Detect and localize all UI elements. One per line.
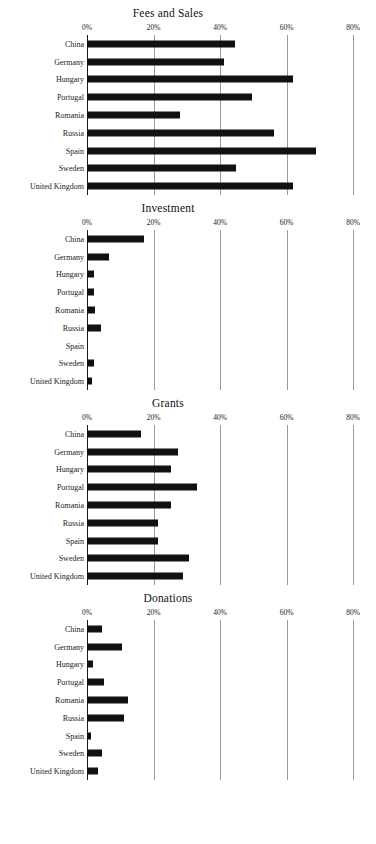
category-label: Germany [54,252,84,261]
category-label: Romania [55,305,84,314]
bar [87,76,293,83]
x-axis-ticks: 0%20%40%60%80% [0,218,376,230]
category-label: United Kingdom [30,182,84,191]
bar-rows: ChinaGermanyHungaryPortugalRomaniaRussia… [0,425,376,585]
category-label: Russia [63,518,84,527]
x-axis-ticks: 0%20%40%60%80% [0,608,376,620]
chart-title: Fees and Sales [0,0,376,23]
bar [87,501,171,508]
bar [87,306,95,313]
bar-row: Portugal [0,673,376,691]
bar [87,732,91,739]
bar [87,165,236,172]
bar [87,324,101,331]
bar [87,519,158,526]
bar-row: Portugal [0,283,376,301]
x-tick-label: 40% [213,23,227,33]
bar-row: Hungary [0,266,376,284]
category-label: China [65,39,84,48]
category-label: Spain [66,146,84,155]
category-label: Sweden [59,359,84,368]
bar-row: Russia [0,319,376,337]
x-tick-label: 80% [346,608,360,618]
x-tick-label: 0% [82,608,92,618]
plot-area: 0%20%40%60%80%ChinaGermanyHungaryPortuga… [0,23,376,195]
category-label: Germany [54,642,84,651]
x-tick-label: 20% [147,608,161,618]
bar-row: United Kingdom [0,372,376,390]
bar [87,768,98,775]
x-tick-label: 60% [280,218,294,228]
category-label: Sweden [59,554,84,563]
x-tick-label: 20% [147,23,161,33]
bar [87,40,235,47]
x-tick-label: 80% [346,218,360,228]
bar [87,696,128,703]
bar [87,573,183,580]
bar-row: China [0,425,376,443]
bar-row: Germany [0,638,376,656]
category-label: Romania [55,500,84,509]
x-tick-label: 40% [213,218,227,228]
bar [87,661,93,668]
x-tick-label: 60% [280,608,294,618]
bar-row: Hungary [0,461,376,479]
bar [87,129,274,136]
bar [87,58,224,65]
bar [87,430,141,437]
x-tick-label: 80% [346,413,360,423]
bar-row: Sweden [0,549,376,567]
chart-title: Investment [0,195,376,218]
bar-row: United Kingdom [0,177,376,195]
category-label: Hungary [56,75,84,84]
bar [87,714,124,721]
bar [87,448,178,455]
figure-root: Fees and Sales0%20%40%60%80%ChinaGermany… [0,0,376,844]
bar [87,289,94,296]
bar [87,271,94,278]
x-tick-label: 0% [82,413,92,423]
bar-row: Russia [0,514,376,532]
category-label: Russia [63,128,84,137]
category-label: Portugal [57,678,84,687]
category-label: Sweden [59,749,84,758]
bar-row: Germany [0,53,376,71]
x-axis-ticks: 0%20%40%60%80% [0,413,376,425]
bar [87,111,180,118]
bar [87,537,158,544]
x-tick-label: 0% [82,218,92,228]
category-label: Russia [63,713,84,722]
bar-row: Spain [0,727,376,745]
bar-row: Spain [0,337,376,355]
bar-row: Germany [0,248,376,266]
bar-row: Romania [0,496,376,514]
plot-area: 0%20%40%60%80%ChinaGermanyHungaryPortuga… [0,218,376,390]
category-label: Spain [66,536,84,545]
bar-row: Hungary [0,71,376,89]
bar [87,360,94,367]
plot-area: 0%20%40%60%80%ChinaGermanyHungaryPortuga… [0,608,376,780]
chart-title: Donations [0,585,376,608]
bar [87,555,189,562]
plot-area: 0%20%40%60%80%ChinaGermanyHungaryPortuga… [0,413,376,585]
chart-title: Grants [0,390,376,413]
category-label: Hungary [56,465,84,474]
category-label: Portugal [57,288,84,297]
category-label: Spain [66,341,84,350]
bar-rows: ChinaGermanyHungaryPortugalRomaniaRussia… [0,230,376,390]
chart-panel: Fees and Sales0%20%40%60%80%ChinaGermany… [0,0,376,195]
bar [87,147,316,154]
bar-row: China [0,230,376,248]
bar [87,253,109,260]
category-label: Germany [54,447,84,456]
bar-row: Hungary [0,656,376,674]
x-tick-label: 0% [82,23,92,33]
bar-row: China [0,620,376,638]
category-label: Romania [55,110,84,119]
x-tick-label: 20% [147,413,161,423]
bar-row: Portugal [0,478,376,496]
category-label: Sweden [59,164,84,173]
bar-row: Germany [0,443,376,461]
bar-row: United Kingdom [0,762,376,780]
bar-row: Spain [0,142,376,160]
